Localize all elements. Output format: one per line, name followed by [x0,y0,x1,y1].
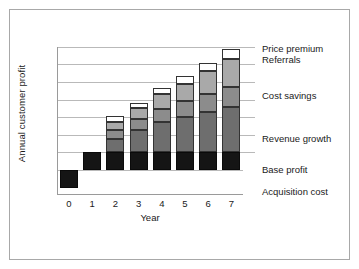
callout-cost-savings: Cost savings [262,90,316,101]
bar-segment-cost-savings [176,101,194,117]
bar-segment-cost-savings [199,94,217,112]
x-tick-label-0: 0 [60,198,78,209]
bar-year-5 [176,0,194,269]
bar-segment-base-profit [130,152,148,170]
bar-year-6 [199,0,217,269]
bar-segment-price-premium [153,88,171,94]
bar-segment-cost-savings [130,119,148,130]
bar-segment-revenue-growth [176,117,194,152]
bar-segment-referrals [106,122,124,131]
x-tick-label-7: 7 [222,198,240,209]
bar-segment-price-premium [222,49,240,59]
x-tick-label-6: 6 [199,198,217,209]
bar-segment-referrals [130,108,148,119]
bar-segment-base-profit [106,152,124,170]
callout-base-profit: Base profit [262,164,307,175]
x-tick-label-3: 3 [130,198,148,209]
bar-year-2 [106,0,124,269]
bar-segment-cost-savings [222,87,240,106]
bar-year-0 [60,0,78,269]
callout-price-premium: Price premium [262,43,323,54]
bar-segment-price-premium [199,63,217,72]
x-tick-label-1: 1 [83,198,101,209]
bar-segment-cost-savings [153,109,171,122]
bar-segment-acquisition-cost [60,170,78,188]
bar-year-4 [153,0,171,269]
bar-segment-referrals [176,84,194,102]
bar-segment-cost-savings [106,130,124,139]
bar-year-3 [130,0,148,269]
y-axis-line [57,47,58,194]
bar-segment-price-premium [176,76,194,84]
x-axis-title: Year [57,212,243,223]
bar-segment-base-profit [199,152,217,170]
callout-referrals: Referrals [262,54,301,65]
bar-segment-revenue-growth [222,107,240,153]
plot-area: 01234567 Price premiumReferralsCost savi… [0,0,359,269]
chart-figure: 01234567 Price premiumReferralsCost savi… [0,0,359,269]
bar-segment-price-premium [130,103,148,108]
bar-segment-referrals [222,59,240,87]
bar-segment-revenue-growth [130,130,148,153]
bar-segment-revenue-growth [199,112,217,152]
callout-acquisition-cost: Acquisition cost [262,186,328,197]
x-tick-label-5: 5 [176,198,194,209]
bar-year-1 [83,0,101,269]
x-tick-label-4: 4 [153,198,171,209]
bar-segment-base-profit [222,152,240,170]
bar-segment-referrals [199,71,217,94]
x-tick-label-2: 2 [106,198,124,209]
bar-segment-base-profit [176,152,194,170]
callout-revenue-growth: Revenue growth [262,133,331,144]
bar-year-7 [222,0,240,269]
bar-segment-revenue-growth [106,139,124,152]
y-axis-title: Annual customer profit [16,44,27,184]
bar-segment-base-profit [83,152,101,170]
bar-segment-base-profit [153,152,171,170]
bar-segment-price-premium [106,116,124,121]
bar-segment-referrals [153,94,171,109]
bar-segment-revenue-growth [153,122,171,152]
